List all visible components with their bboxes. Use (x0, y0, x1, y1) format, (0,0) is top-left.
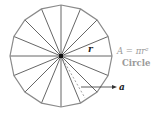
radius-label: r (88, 44, 94, 54)
sector-spoke (25, 20, 61, 56)
arrow-head-icon (112, 85, 117, 89)
area-formula: A = πr² (116, 46, 149, 56)
circle-diagram: r a A = πr² Circle (0, 0, 161, 114)
apothem-label: a (119, 82, 125, 92)
sector-spoke (25, 56, 61, 92)
center-point (59, 54, 63, 58)
shape-title: Circle (122, 58, 151, 68)
